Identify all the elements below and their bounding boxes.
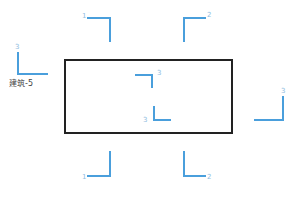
marker-vertical-line — [151, 74, 153, 88]
marker-number: 3 — [281, 88, 285, 95]
marker-number: 1 — [82, 13, 86, 20]
marker-horizontal-line — [254, 119, 284, 121]
marker-vertical-line — [282, 96, 284, 121]
marker-vertical-line — [183, 151, 185, 177]
building-outline — [64, 59, 233, 134]
marker-vertical-line — [153, 106, 155, 121]
marker-horizontal-line — [87, 17, 111, 19]
marker-horizontal-line — [87, 175, 111, 177]
marker-number: 1 — [82, 174, 86, 181]
building-label: 建筑-5 — [9, 79, 33, 88]
marker-number: 2 — [207, 12, 211, 19]
marker-number: 2 — [207, 174, 211, 181]
marker-vertical-line — [17, 52, 19, 75]
marker-vertical-line — [109, 151, 111, 177]
marker-horizontal-line — [183, 175, 206, 177]
marker-number: 3 — [15, 44, 19, 51]
marker-horizontal-line — [183, 17, 206, 19]
marker-vertical-line — [109, 17, 111, 42]
marker-horizontal-line — [17, 73, 48, 75]
diagram-canvas: 建筑-5 12333312 — [0, 0, 300, 197]
marker-vertical-line — [183, 17, 185, 42]
marker-number: 3 — [157, 70, 161, 77]
marker-horizontal-line — [153, 119, 171, 121]
marker-number: 3 — [143, 117, 147, 124]
